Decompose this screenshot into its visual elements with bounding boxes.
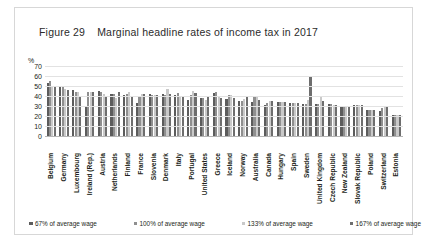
x-axis-labels: BelgiumGermanyLuxembourgIreland (Rep.)Au… xyxy=(45,152,403,210)
bar xyxy=(297,103,299,136)
x-axis-label-text: Netherlands xyxy=(112,153,119,191)
x-axis-label-text: Hungary xyxy=(278,153,285,180)
y-axis-tick-label: 20 xyxy=(34,113,42,120)
legend-label: 100% of average wage xyxy=(140,220,205,227)
x-axis-label: Australia xyxy=(250,152,263,210)
y-axis-tick-label: 10 xyxy=(34,123,42,130)
bar xyxy=(143,94,145,136)
x-axis-label: Ireland (Rep.) xyxy=(83,152,96,210)
x-axis-label-text: United Kingdom xyxy=(317,153,324,204)
chart-legend: 67% of average wage100% of average wage1… xyxy=(29,220,421,227)
x-axis-label-text: Denmark xyxy=(163,153,170,181)
bar xyxy=(169,94,171,136)
x-axis-label-text: Belgium xyxy=(48,153,55,179)
legend-item[interactable]: 167% of average wage xyxy=(350,220,421,227)
legend-swatch-icon xyxy=(29,222,33,226)
x-axis-label: Italy xyxy=(173,152,186,210)
legend-item[interactable]: 67% of average wage xyxy=(29,220,97,227)
legend-swatch-icon xyxy=(350,222,354,226)
legend-item[interactable]: 133% of average wage xyxy=(242,220,313,227)
x-axis-label-text: Ireland (Rep.) xyxy=(86,153,93,195)
legend-label: 167% of average wage xyxy=(356,220,421,227)
x-axis-label-text: United States xyxy=(201,153,208,195)
x-axis-label: Estonia xyxy=(390,152,403,210)
x-axis-label-text: Estonia xyxy=(393,153,400,177)
legend-swatch-icon xyxy=(242,222,246,226)
legend-swatch-icon xyxy=(134,222,138,226)
x-axis-label: United States xyxy=(198,152,211,210)
x-axis-label: Denmark xyxy=(160,152,173,210)
figure-number: Figure 29 xyxy=(39,26,85,38)
x-axis-label: Portugal xyxy=(186,152,199,210)
x-axis-label: Canada xyxy=(262,152,275,210)
y-axis-tick-label: 30 xyxy=(34,103,42,110)
x-axis-label: New Zealand xyxy=(339,152,352,210)
x-axis-label: Spain xyxy=(288,152,301,210)
bar xyxy=(194,93,196,136)
bar xyxy=(373,110,375,136)
gridline xyxy=(45,126,403,127)
x-axis-label: Hungary xyxy=(275,152,288,210)
x-axis-label-text: Italy xyxy=(176,153,183,166)
x-axis-label-text: New Zealand xyxy=(342,153,349,193)
x-axis-label: Austria xyxy=(96,152,109,210)
figure-title: Figure 29Marginal headline rates of inco… xyxy=(39,26,318,38)
y-axis-tick-label: 50 xyxy=(34,83,42,90)
legend-item[interactable]: 100% of average wage xyxy=(134,220,205,227)
x-axis-label: Norway xyxy=(237,152,250,210)
bar xyxy=(92,92,94,136)
gridline xyxy=(45,76,403,77)
x-axis-label-text: Austria xyxy=(99,153,106,176)
x-axis-label: United Kingdom xyxy=(313,152,326,210)
figure-container: Figure 29Marginal headline rates of inco… xyxy=(14,7,413,235)
x-axis-label: Sweden xyxy=(301,152,314,210)
x-axis-label: Luxembourg xyxy=(71,152,84,210)
x-axis-label: France xyxy=(134,152,147,210)
legend-label: 133% of average wage xyxy=(248,220,313,227)
x-axis-label-text: Canada xyxy=(265,153,272,177)
x-axis-label-text: Sweden xyxy=(304,153,311,178)
bar xyxy=(54,86,56,136)
plot-area-wrapper: 706050403020100 xyxy=(24,66,405,150)
gridline xyxy=(45,96,403,97)
x-axis-label-text: Portugal xyxy=(189,153,196,180)
x-axis-label-text: Poland xyxy=(368,153,375,175)
x-axis-label-text: Germany xyxy=(61,153,68,182)
bar xyxy=(284,102,286,136)
y-axis-tick-label: 70 xyxy=(34,63,42,70)
gridline xyxy=(45,116,403,117)
x-axis-label: Netherlands xyxy=(109,152,122,210)
bar xyxy=(233,98,235,136)
plot-area xyxy=(45,66,403,137)
y-axis: 706050403020100 xyxy=(24,66,44,136)
x-axis-label-text: Slovak Republic xyxy=(355,153,362,204)
bar xyxy=(361,105,363,136)
gridline xyxy=(45,86,403,87)
x-axis-label: Slovenia xyxy=(147,152,160,210)
x-axis-label: Belgium xyxy=(45,152,58,210)
x-axis-label-text: Iceland xyxy=(227,153,234,176)
x-axis-label-text: Spain xyxy=(291,153,298,171)
y-axis-tick-label: 40 xyxy=(34,93,42,100)
x-axis-label-text: France xyxy=(138,153,145,175)
x-axis-label-text: Slovenia xyxy=(150,153,157,180)
x-axis-label: Poland xyxy=(365,152,378,210)
x-axis-label-text: Czech Republic xyxy=(329,153,336,202)
x-axis-label: Czech Republic xyxy=(326,152,339,210)
y-axis-tick-label: 60 xyxy=(34,73,42,80)
x-axis-label: Slovak Republic xyxy=(352,152,365,210)
legend-label: 67% of average wage xyxy=(35,220,97,227)
x-axis-label-text: Finland xyxy=(125,153,132,176)
x-axis-label-text: Australia xyxy=(253,153,260,181)
gridline xyxy=(45,106,403,107)
bar xyxy=(118,92,120,136)
figure-title-text: Marginal headline rates of income tax in… xyxy=(97,26,318,38)
x-axis-label: Germany xyxy=(58,152,71,210)
bar xyxy=(348,106,350,136)
gridline xyxy=(45,66,403,67)
x-axis-label-text: Switzerland xyxy=(380,153,387,190)
bar xyxy=(220,98,222,136)
x-axis-label: Greece xyxy=(211,152,224,210)
x-axis-label-text: Luxembourg xyxy=(74,153,81,193)
x-axis-label-text: Norway xyxy=(240,153,247,177)
